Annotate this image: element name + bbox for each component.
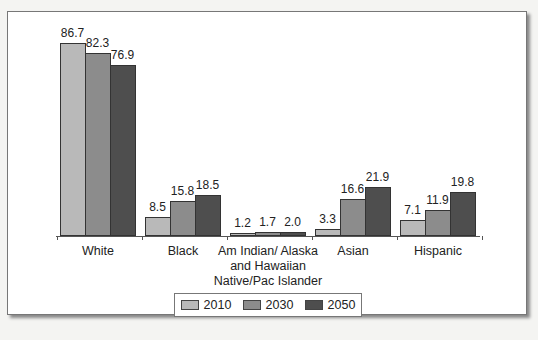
legend-swatch-2050 bbox=[305, 300, 323, 310]
x-axis bbox=[56, 236, 480, 237]
data-label: 2.0 bbox=[273, 215, 313, 229]
x-axis-tick bbox=[227, 236, 228, 240]
bar-2030 bbox=[170, 201, 196, 236]
bar-2050 bbox=[365, 187, 391, 236]
bar-2010 bbox=[315, 229, 341, 236]
data-label: 18.5 bbox=[188, 178, 228, 192]
bar-2010 bbox=[145, 217, 171, 236]
bar-2010 bbox=[400, 220, 426, 236]
legend-swatch-2010 bbox=[181, 300, 199, 310]
data-label: 76.9 bbox=[103, 48, 143, 62]
legend-swatch-2030 bbox=[243, 300, 261, 310]
x-axis-tick bbox=[397, 236, 398, 240]
x-axis-tick bbox=[482, 236, 483, 240]
legend-item-2010: 2010 bbox=[181, 298, 232, 312]
bar-2050 bbox=[450, 192, 476, 236]
legend-label: 2030 bbox=[266, 298, 294, 312]
bar-2010 bbox=[230, 233, 256, 236]
bar-2050 bbox=[280, 232, 306, 236]
data-label: 19.8 bbox=[443, 175, 483, 189]
legend: 2010 2030 2050 bbox=[174, 293, 362, 317]
x-axis-tick bbox=[142, 236, 143, 240]
category-label: Hispanic bbox=[378, 244, 498, 259]
bar-2010 bbox=[60, 43, 86, 236]
legend-item-2030: 2030 bbox=[243, 298, 294, 312]
bar-2030 bbox=[425, 210, 451, 236]
bar-chart: 86.782.376.9White8.515.818.5Black1.21.72… bbox=[0, 0, 538, 340]
bar-2030 bbox=[340, 199, 366, 236]
bar-2030 bbox=[85, 53, 111, 236]
bar-2030 bbox=[255, 232, 281, 236]
bar-2050 bbox=[195, 195, 221, 236]
legend-label: 2050 bbox=[328, 298, 356, 312]
legend-label: 2010 bbox=[204, 298, 232, 312]
x-axis-tick bbox=[57, 236, 58, 240]
bar-2050 bbox=[110, 65, 136, 236]
data-label: 21.9 bbox=[358, 170, 398, 184]
x-axis-tick bbox=[312, 236, 313, 240]
legend-item-2050: 2050 bbox=[305, 298, 356, 312]
